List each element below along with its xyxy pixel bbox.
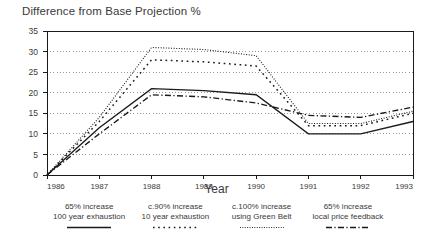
svg-text:30: 30 [29,47,39,57]
chart-root: Difference from Base Projection % 051015… [0,0,433,247]
svg-text:25: 25 [29,67,39,77]
legend-swatch-solid [66,225,112,230]
legend-item-3: 65% increase local price feedback [305,202,391,230]
chart-legend: 65% increase 100 year exhaustion c.90% i… [46,202,391,230]
series-line-2 [47,47,413,175]
legend-item-2-label-line2: using Green Belt [221,212,303,222]
svg-text:35: 35 [29,26,39,36]
legend-item-2-label-line1: c.100% increase [221,202,303,212]
data-series-lines [47,47,413,175]
svg-text:10: 10 [29,129,39,139]
svg-text:5: 5 [33,150,38,160]
legend-item-2: c.100% increase using Green Belt [219,202,305,230]
svg-text:15: 15 [29,108,39,118]
legend-item-0-label-line2: 100 year exhaustion [48,212,130,222]
x-axis-title: Year [0,182,433,196]
plot-frame [47,31,413,175]
legend-swatch-dotted-sparse [152,225,198,230]
series-line-3 [47,95,413,175]
x-axis-tick-marks [47,175,413,179]
legend-item-0: 65% increase 100 year exhaustion [46,202,132,230]
legend-item-3-label-line1: 65% increase [307,202,389,212]
legend-item-0-label-line1: 65% increase [48,202,130,212]
legend-item-1-label-line1: c.90% increase [134,202,216,212]
legend-swatch-dotted-fine [239,225,285,230]
legend-item-1: c.90% increase 10 year exhaustion [132,202,218,230]
legend-item-3-label-line2: local price feedback [307,212,389,222]
legend-swatch-dash-dot [325,225,371,230]
y-axis-tick-labels: 05101520253035 [29,26,39,180]
svg-text:20: 20 [29,88,39,98]
legend-item-1-label-line2: 10 year exhaustion [134,212,216,222]
y-axis-tick-marks [43,31,47,175]
svg-text:0: 0 [33,170,38,180]
